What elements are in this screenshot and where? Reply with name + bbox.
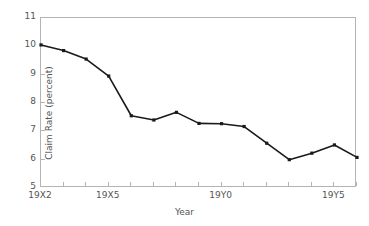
data-point [130, 114, 133, 117]
x-tick-label: 19Y0 [201, 191, 241, 200]
data-point [152, 118, 155, 121]
y-tick-label: 11 [20, 12, 36, 21]
y-tick-label: 7 [20, 125, 36, 134]
plot-area [40, 17, 356, 187]
data-point [333, 143, 336, 146]
y-tick-label: 9 [20, 69, 36, 78]
x-tick-label: 19X2 [20, 191, 60, 200]
data-point [265, 142, 268, 145]
line-chart: Claim Rate (percent) 567891011 19X219X51… [0, 0, 369, 226]
series-plot [41, 18, 357, 188]
data-point [220, 122, 223, 125]
data-point [85, 57, 88, 60]
data-point [288, 158, 291, 161]
x-tick-label: 19Y5 [313, 191, 353, 200]
data-point [62, 49, 65, 52]
y-tick-label: 6 [20, 154, 36, 163]
y-tick-label: 10 [20, 40, 36, 49]
x-axis-title: Year [0, 207, 369, 217]
data-point [355, 156, 358, 159]
data-point [197, 122, 200, 125]
claim-rate-line [41, 45, 357, 160]
data-point [310, 152, 313, 155]
data-point [243, 125, 246, 128]
x-tick-label: 19X5 [88, 191, 128, 200]
claim-rate-markers [39, 43, 358, 161]
data-point [107, 74, 110, 77]
y-tick-label: 8 [20, 97, 36, 106]
data-point [39, 43, 42, 46]
data-point [175, 111, 178, 114]
